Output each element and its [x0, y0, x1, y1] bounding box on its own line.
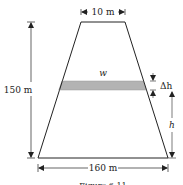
strip-height-label: h	[169, 120, 175, 130]
figure-caption: Figure 6.11	[79, 181, 126, 185]
strip-height-dimension: h	[168, 92, 176, 158]
strip-thickness-label: Δh	[160, 81, 172, 91]
bottom-width-dimension: 160 m	[38, 163, 168, 173]
top-width-label: 10 m	[92, 7, 115, 17]
strip-width-label: w	[99, 68, 107, 78]
top-width-dimension: 10 m	[81, 7, 125, 17]
height-label: 150 m	[4, 85, 33, 95]
shaded-strip	[59, 81, 147, 90]
dam-trapezoid-diagram: 10 m 150 m 160 m w Δh h Figure 6.11	[0, 0, 183, 185]
strip-thickness-dimension: Δh	[150, 73, 172, 98]
height-dimension: 150 m	[4, 22, 35, 158]
bottom-width-label: 160 m	[89, 163, 118, 173]
